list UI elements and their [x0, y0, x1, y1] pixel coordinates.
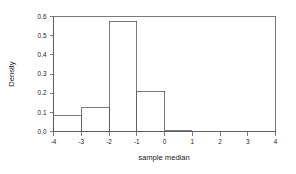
x-tick-label: 3 — [246, 138, 250, 145]
y-tick-label: 0.1 — [38, 109, 47, 116]
y-axis-title: Density — [7, 61, 16, 87]
y-tick-label: 0.0 — [38, 128, 47, 135]
histogram-figure: 0.00.10.20.30.40.50.6 -4-3-2-101234 samp… — [0, 0, 296, 174]
x-tick-label: -3 — [78, 138, 84, 145]
x-tick-label: 4 — [274, 138, 278, 145]
x-tick-label: -1 — [134, 138, 140, 145]
x-axis-title: sample median — [138, 153, 190, 162]
figure-background — [0, 0, 296, 174]
x-tick-label: -4 — [51, 138, 57, 145]
y-tick-label: 0.5 — [38, 32, 47, 39]
x-tick-label: -2 — [106, 138, 112, 145]
y-tick-label: 0.4 — [38, 51, 47, 58]
y-tick-label: 0.6 — [38, 13, 47, 20]
x-tick-label: 0 — [163, 138, 167, 145]
y-tick-label: 0.3 — [38, 70, 47, 77]
x-tick-label: 1 — [190, 138, 194, 145]
y-tick-label: 0.2 — [38, 89, 47, 96]
plot-canvas: 0.00.10.20.30.40.50.6 -4-3-2-101234 samp… — [0, 0, 296, 174]
x-tick-label: 2 — [218, 138, 222, 145]
